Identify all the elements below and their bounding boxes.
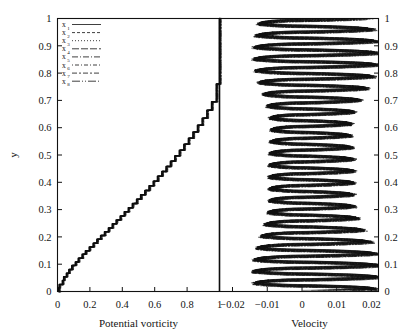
legend-sublabel-3: 3 bbox=[67, 42, 70, 47]
right-ytick-label-6: 0.6 bbox=[385, 122, 398, 133]
left-xtick-label-4: 0.8 bbox=[181, 299, 194, 310]
pv-curve-group bbox=[58, 19, 221, 292]
legend-sublabel-7: 7 bbox=[67, 74, 70, 79]
left-ytick-label-2: 0.2 bbox=[38, 232, 51, 243]
right-ytick-label-8: 0.8 bbox=[385, 68, 398, 79]
two-panel-plot: 00.20.40.60.81Potential vorticity−0.02−0… bbox=[0, 0, 415, 334]
left-ytick-label-0: 0 bbox=[46, 286, 51, 297]
pv-curve-x7 bbox=[59, 19, 220, 292]
legend-sublabel-6: 6 bbox=[67, 66, 70, 71]
right-ytick-label-0: 0 bbox=[385, 286, 390, 297]
left-xtick-label-0: 0 bbox=[55, 299, 60, 310]
left-ytick-label-6: 0.6 bbox=[38, 122, 51, 133]
pv-curve-x2 bbox=[58, 19, 219, 292]
legend: x1x2x3x4x5x6x7x8 bbox=[62, 20, 101, 87]
pv-curve-x1 bbox=[58, 19, 219, 292]
right-ytick-label-4: 0.4 bbox=[385, 177, 399, 188]
pv-curve-x3 bbox=[59, 19, 220, 292]
right-ytick-label-9: 0.9 bbox=[385, 41, 398, 52]
right-xtick-label-2: 0 bbox=[299, 299, 304, 310]
left-ytick-label-7: 0.7 bbox=[38, 95, 51, 106]
right-ytick-label-7: 0.7 bbox=[385, 95, 398, 106]
legend-sublabel-2: 2 bbox=[67, 34, 70, 39]
right-x-axis-title: Velocity bbox=[291, 317, 328, 329]
figure-container: 00.20.40.60.81Potential vorticity−0.02−0… bbox=[0, 0, 415, 334]
velocity-curve-group bbox=[251, 19, 379, 290]
pv-curve-x5 bbox=[59, 19, 220, 292]
legend-label-x8: x bbox=[62, 77, 66, 86]
left-ytick-label-1: 0.1 bbox=[38, 259, 51, 270]
left-xtick-label-2: 0.4 bbox=[116, 299, 130, 310]
left-xtick-label-3: 0.6 bbox=[148, 299, 161, 310]
left-x-axis-title: Potential vorticity bbox=[99, 317, 179, 329]
right-xtick-label-0: −0.02 bbox=[220, 299, 244, 310]
legend-sublabel-5: 5 bbox=[67, 58, 70, 63]
y-axis-title: y bbox=[7, 152, 19, 158]
legend-sublabel-8: 8 bbox=[67, 82, 70, 87]
legend-sublabel-4: 4 bbox=[67, 50, 70, 55]
left-ytick-label-10: 1 bbox=[46, 13, 51, 24]
legend-sublabel-1: 1 bbox=[67, 26, 70, 31]
right-ytick-label-1: 0.1 bbox=[385, 259, 398, 270]
left-ytick-label-8: 0.8 bbox=[38, 68, 51, 79]
right-ytick-label-3: 0.3 bbox=[385, 204, 398, 215]
left-ytick-label-5: 0.5 bbox=[38, 150, 51, 161]
right-ytick-label-2: 0.2 bbox=[385, 232, 398, 243]
right-xtick-label-3: 0.01 bbox=[328, 299, 346, 310]
right-ytick-label-10: 1 bbox=[385, 13, 390, 24]
right-xtick-label-1: −0.01 bbox=[255, 299, 279, 310]
right-xtick-label-4: 0.02 bbox=[362, 299, 380, 310]
left-ytick-label-3: 0.3 bbox=[38, 204, 51, 215]
pv-curve-x8 bbox=[60, 19, 221, 292]
pv-curve-x6 bbox=[59, 19, 220, 292]
pv-curve-x4 bbox=[59, 19, 220, 292]
left-xtick-label-1: 0.2 bbox=[83, 299, 96, 310]
left-ytick-label-4: 0.4 bbox=[38, 177, 52, 188]
right-ytick-label-5: 0.5 bbox=[385, 150, 398, 161]
left-ytick-label-9: 0.9 bbox=[38, 41, 51, 52]
